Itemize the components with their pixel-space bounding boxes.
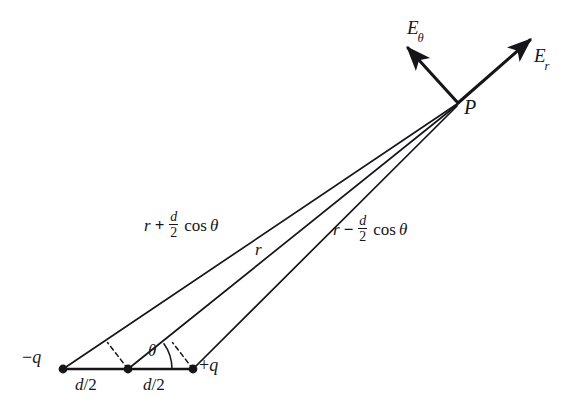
e-theta-vector-arrow <box>408 48 458 103</box>
negative-charge-symbol: q <box>32 347 41 367</box>
e-theta-label: Eθ <box>407 18 425 41</box>
e-r-label: Er <box>534 46 551 69</box>
distance-pos-numerator: d <box>358 214 367 229</box>
distance-pos-trig: cos <box>371 221 396 238</box>
distance-neg-trig: cos <box>182 217 207 234</box>
separation-left-label: d/2 <box>75 376 97 393</box>
negative-charge-label: −q <box>22 348 41 366</box>
distance-pos-fraction: d 2 <box>358 214 367 245</box>
distance-pos-operator: − <box>343 221 355 238</box>
dashed-projection-left <box>108 343 129 370</box>
negative-charge-sign: − <box>22 347 32 367</box>
point-p-label: P <box>464 97 476 117</box>
e-r-label-base: E <box>534 45 546 66</box>
distance-neg-operator: + <box>154 217 166 234</box>
distance-from-negative-label: r + d 2 cos θ <box>144 210 218 241</box>
distance-from-positive-label: r − d 2 cos θ <box>333 214 407 245</box>
dipole-diagram-canvas <box>0 0 582 416</box>
e-theta-label-subscript: θ <box>418 31 424 45</box>
ray-from-positive-charge <box>193 106 457 369</box>
separation-left-numerator: d <box>75 375 84 394</box>
dashed-projection-right <box>173 343 194 370</box>
distance-neg-base: r <box>144 217 151 234</box>
e-theta-label-base: E <box>407 17 419 38</box>
separation-right-numerator: d <box>143 375 152 394</box>
distance-neg-denominator: 2 <box>169 224 178 240</box>
distance-neg-numerator: d <box>169 210 178 225</box>
distance-pos-base: r <box>333 221 340 238</box>
e-r-label-subscript: r <box>545 59 550 73</box>
separation-right-label: d/2 <box>143 376 165 393</box>
separation-right-denominator: 2 <box>156 375 165 394</box>
e-r-vector-arrow <box>458 40 530 103</box>
separation-left-denominator: 2 <box>88 375 97 394</box>
dipole-center-dot <box>124 365 133 374</box>
distance-pos-denominator: 2 <box>358 228 367 244</box>
theta-angle-label: θ <box>148 342 156 359</box>
positive-charge-symbol: q <box>209 355 218 375</box>
positive-charge-sign: + <box>199 355 209 375</box>
theta-angle-arc <box>164 343 172 369</box>
distance-neg-angle: θ <box>210 217 218 234</box>
positive-charge-dot <box>189 365 198 374</box>
distance-neg-fraction: d 2 <box>169 210 178 241</box>
dipole-figure: Eθ Er P r + d 2 cos θ r r − d 2 cos <box>0 0 582 416</box>
positive-charge-label: +q <box>199 356 218 374</box>
negative-charge-dot <box>59 365 68 374</box>
distance-pos-angle: θ <box>399 221 407 238</box>
distance-center-label: r <box>255 241 262 258</box>
